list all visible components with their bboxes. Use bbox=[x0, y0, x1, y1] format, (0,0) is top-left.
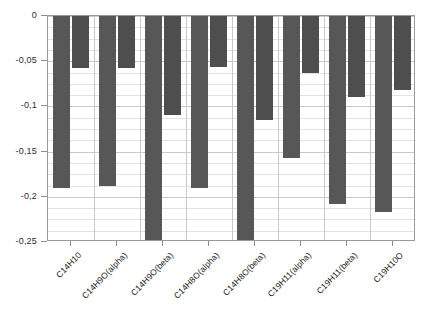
bar bbox=[164, 16, 182, 115]
plot-area bbox=[47, 15, 415, 241]
x-axis-tick-mark bbox=[346, 241, 347, 246]
y-axis: 0-0,05-0,1-0,15-0,2-0,25 bbox=[0, 0, 47, 256]
y-axis-tick-label: -0,2 bbox=[21, 191, 37, 201]
bar bbox=[99, 16, 117, 186]
x-axis-tick-mark bbox=[70, 241, 71, 246]
bar bbox=[210, 16, 228, 67]
bar bbox=[237, 16, 255, 241]
x-axis-tick-mark bbox=[254, 241, 255, 246]
bar bbox=[283, 16, 301, 158]
bar-group-container bbox=[48, 16, 414, 240]
bar bbox=[118, 16, 136, 68]
x-axis-tick-mark bbox=[300, 241, 301, 246]
bar bbox=[145, 16, 163, 240]
bar bbox=[394, 16, 412, 90]
x-axis-tick-mark bbox=[116, 241, 117, 246]
x-axis-tick-mark bbox=[392, 241, 393, 246]
x-axis-tick-label: C14H10 bbox=[54, 250, 83, 280]
bar bbox=[53, 16, 71, 188]
bar bbox=[72, 16, 90, 68]
x-axis-labels: C14H10C14H9O(alpha)C14H9O(beta)C14H8O(al… bbox=[0, 241, 427, 319]
x-axis-tick-label: C19H10O bbox=[371, 250, 405, 285]
x-axis-tick-mark bbox=[162, 241, 163, 246]
x-axis-tick-label: C14H9O(alpha) bbox=[80, 250, 129, 301]
bar bbox=[375, 16, 393, 212]
x-axis-tick-mark bbox=[208, 241, 209, 246]
y-axis-tick-label: -0,1 bbox=[21, 100, 37, 110]
x-axis-tick-label: C14H8O(beta) bbox=[221, 250, 267, 298]
y-axis-tick-label: -0,05 bbox=[15, 55, 37, 65]
bar bbox=[302, 16, 320, 73]
y-axis-tick-label: 0 bbox=[32, 10, 37, 20]
x-axis-tick-label: C14H8O(alpha) bbox=[172, 250, 221, 301]
bar bbox=[191, 16, 209, 188]
bar bbox=[256, 16, 274, 120]
x-axis-tick-label: C19H11(beta) bbox=[315, 250, 360, 296]
x-axis-tick-label: C14H9O(beta) bbox=[129, 250, 175, 298]
bar bbox=[329, 16, 347, 204]
x-axis-tick-label: C19H11(alpha) bbox=[265, 250, 313, 299]
bar bbox=[348, 16, 366, 97]
y-axis-tick-label: -0,15 bbox=[15, 146, 37, 156]
bar-chart: 0-0,05-0,1-0,15-0,2-0,25 C14H10C14H9O(al… bbox=[0, 0, 427, 319]
